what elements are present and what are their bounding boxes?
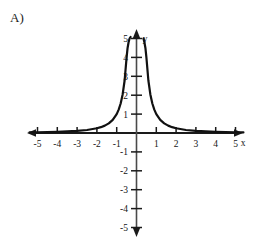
y-tick-label: -3: [120, 185, 128, 195]
figure-panel: A): [0, 0, 253, 242]
x-tick-label: 1: [154, 139, 159, 149]
y-tick-label: -2: [120, 166, 128, 176]
x-tick-label: 2: [174, 139, 179, 149]
x-tick-label: 5: [233, 139, 238, 149]
y-tick-label: -5: [120, 223, 128, 233]
x-tick-label: -3: [73, 139, 81, 149]
y-tick-label: -4: [120, 204, 128, 214]
y-axis-top-arrow-icon: [133, 29, 140, 38]
axes-group: [27, 29, 243, 237]
x-tick-label: 3: [194, 139, 199, 149]
x-tick-label: -5: [34, 139, 42, 149]
y-axis-bottom-arrow-icon: [133, 228, 140, 237]
y-tick-label: 1: [123, 110, 128, 120]
y-tick-label: -1: [120, 147, 128, 157]
x-tick-label: -4: [53, 139, 61, 149]
coordinate-plot: -5 -4 -3 -2 -1 1 2 3 4 5 5 4 3 2 1 -1 -2…: [0, 0, 253, 242]
x-tick-label: 4: [213, 139, 218, 149]
x-tick-label: -2: [93, 139, 101, 149]
x-axis-label: x: [241, 138, 246, 148]
